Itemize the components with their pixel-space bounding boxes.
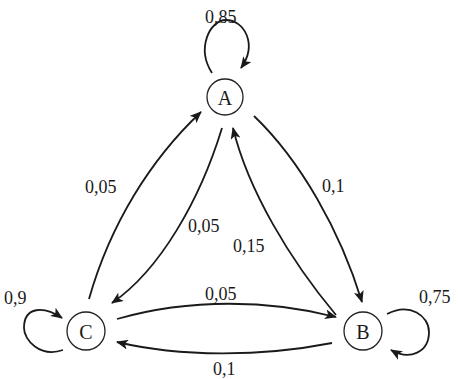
label-b-b: 0,75 xyxy=(419,287,451,307)
node-b: B xyxy=(344,312,382,350)
node-c: C xyxy=(67,312,105,350)
label-b-a: 0,15 xyxy=(233,236,265,256)
label-a-c: 0,05 xyxy=(188,216,220,236)
label-a-b: 0,1 xyxy=(322,176,345,196)
label-b-c: 0,1 xyxy=(213,359,236,379)
edge-a-a xyxy=(205,20,249,73)
edge-c-c xyxy=(24,310,63,352)
edge-b-b xyxy=(387,309,429,354)
state-diagram: 0,85 0,9 0,75 0,05 0,05 0,1 0,15 0,1 0,0… xyxy=(0,0,458,379)
node-a-label: A xyxy=(218,87,233,109)
label-c-a: 0,05 xyxy=(85,177,117,197)
label-c-c: 0,9 xyxy=(4,288,27,308)
node-a: A xyxy=(207,79,243,115)
edge-c-b xyxy=(117,304,336,319)
edge-a-b xyxy=(254,116,362,302)
edge-b-a xyxy=(233,128,336,315)
edge-b-c xyxy=(117,342,332,353)
label-c-b: 0,05 xyxy=(205,284,237,304)
node-b-label: B xyxy=(356,321,369,343)
edge-c-a xyxy=(89,112,201,299)
label-a-a: 0,85 xyxy=(205,7,237,27)
node-c-label: C xyxy=(79,321,92,343)
